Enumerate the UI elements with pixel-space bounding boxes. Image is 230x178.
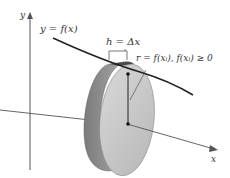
disk-diagram: y x y = f(x) h = Δx r = f(xᵢ), f(xᵢ) ≥ 0 [0,0,230,178]
disk [84,61,160,178]
x-axis-arrow-icon [209,145,218,152]
radius-top-point [126,72,130,76]
curve-label: y = f(x) [39,23,78,34]
center-point [126,122,130,126]
radius-label: r = f(xᵢ), f(xᵢ) ≥ 0 [136,53,213,63]
x-axis-label: x [211,154,216,164]
thickness-label: h = Δx [106,36,140,47]
thickness-bracket [109,49,127,60]
y-axis-arrow-icon [27,12,33,19]
y-axis [27,12,33,170]
y-axis-label: y [19,10,26,20]
